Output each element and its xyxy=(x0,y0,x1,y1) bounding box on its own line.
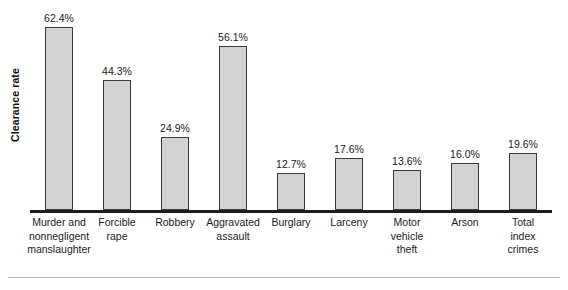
y-axis-title: Clearance rate xyxy=(6,0,24,210)
bar[interactable] xyxy=(45,27,73,210)
bar-group: 62.4% xyxy=(30,8,88,210)
bar-group: 12.7% xyxy=(262,8,320,210)
bar-value-label: 24.9% xyxy=(146,122,204,134)
y-axis-title-label: Clearance rate xyxy=(9,68,21,142)
clearance-rate-bar-chart: Clearance rate 62.4%44.3%24.9%56.1%12.7%… xyxy=(0,0,568,290)
bar-value-label: 62.4% xyxy=(30,12,88,24)
bar[interactable] xyxy=(451,163,479,210)
bottom-divider xyxy=(8,277,560,278)
bar-value-label: 44.3% xyxy=(88,65,146,77)
bar-value-label: 17.6% xyxy=(320,143,378,155)
bar-value-label: 19.6% xyxy=(494,138,552,150)
bar[interactable] xyxy=(335,158,363,210)
category-label: Totalindexcrimes xyxy=(488,216,558,257)
bar[interactable] xyxy=(103,80,131,210)
bar-group: 13.6% xyxy=(378,8,436,210)
category-label-line: crimes xyxy=(488,243,558,257)
category-labels: Murder andnonnegligentmanslaughterForcib… xyxy=(30,216,552,274)
category-label-line: vehicle xyxy=(372,230,442,244)
bar[interactable] xyxy=(277,173,305,210)
category-label-line: index xyxy=(488,230,558,244)
plot-area: 62.4%44.3%24.9%56.1%12.7%17.6%13.6%16.0%… xyxy=(30,8,552,212)
category-label-line: rape xyxy=(82,230,152,244)
bar[interactable] xyxy=(219,46,247,210)
category-label-line: manslaughter xyxy=(24,243,94,257)
x-axis-baseline xyxy=(30,210,552,213)
bar[interactable] xyxy=(393,170,421,210)
bar-group: 24.9% xyxy=(146,8,204,210)
category-label-line: Total xyxy=(488,216,558,230)
bar-group: 16.0% xyxy=(436,8,494,210)
bar-group: 56.1% xyxy=(204,8,262,210)
bar-group: 19.6% xyxy=(494,8,552,210)
category-label-line: assault xyxy=(198,230,268,244)
bar-group: 17.6% xyxy=(320,8,378,210)
bar-value-label: 12.7% xyxy=(262,158,320,170)
bar-value-label: 56.1% xyxy=(204,31,262,43)
bar-value-label: 13.6% xyxy=(378,155,436,167)
category-label-line: theft xyxy=(372,243,442,257)
bar-group: 44.3% xyxy=(88,8,146,210)
bar[interactable] xyxy=(509,153,537,210)
bar[interactable] xyxy=(161,137,189,210)
bar-value-label: 16.0% xyxy=(436,148,494,160)
